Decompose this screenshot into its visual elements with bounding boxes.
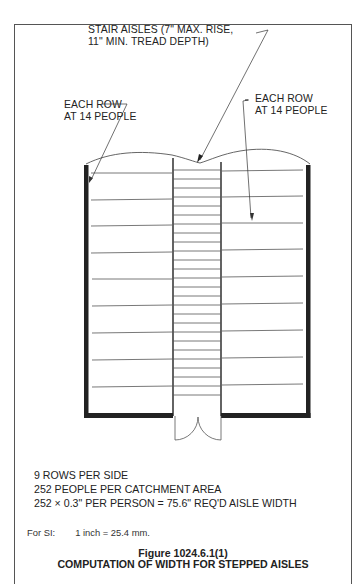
exit-double-door	[175, 416, 221, 440]
left-rows-callout-line2: AT 14 PEOPLE	[64, 111, 136, 123]
right-rows-callout-line2: AT 14 PEOPLE	[255, 105, 327, 117]
note-people-per-area: 252 PEOPLE PER CATCHMENT AREA	[34, 482, 297, 496]
stair-aisles-callout-line1: STAIR AISLES (7" MAX. RISE,	[88, 24, 233, 36]
right-wall	[306, 165, 311, 418]
note-aisle-width: 252 × 0.3" PER PERSON = 75.6" REQ'D AISL…	[34, 496, 297, 510]
stair-aisles-callout: STAIR AISLES (7" MAX. RISE, 11" MIN. TRE…	[88, 24, 233, 48]
note-rows-per-side: 9 ROWS PER SIDE	[34, 468, 297, 482]
left-wall	[84, 165, 89, 418]
si-label: For SI:	[27, 527, 55, 538]
bottom-wall-left	[84, 413, 173, 418]
si-conversion-note: For SI:1 inch = 25.4 mm.	[27, 527, 150, 538]
computation-notes: 9 ROWS PER SIDE 252 PEOPLE PER CATCHMENT…	[34, 468, 297, 511]
si-value: 1 inch = 25.4 mm.	[75, 527, 150, 538]
leader-lines	[91, 30, 268, 218]
right-seating-rows	[222, 170, 303, 385]
left-seating-rows	[91, 173, 173, 387]
left-rows-callout-line1: EACH ROW	[64, 99, 136, 111]
bottom-wall-right	[221, 413, 311, 418]
right-rows-callout: EACH ROW AT 14 PEOPLE	[255, 93, 327, 117]
stair-treads	[173, 170, 221, 395]
left-rows-callout: EACH ROW AT 14 PEOPLE	[64, 99, 136, 123]
figure-title: COMPUTATION OF WIDTH FOR STEPPED AISLES	[14, 558, 352, 570]
right-rows-callout-line1: EACH ROW	[255, 93, 327, 105]
stair-aisles-callout-line2: 11" MIN. TREAD DEPTH)	[88, 36, 233, 48]
